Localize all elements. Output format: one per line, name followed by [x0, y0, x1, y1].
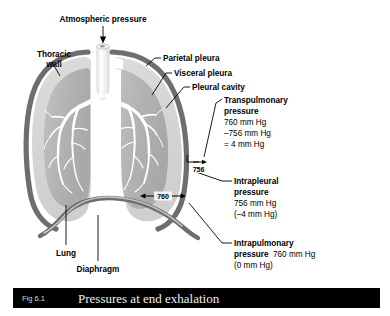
- label-atmospheric-pressure: Atmospheric pressure: [60, 15, 147, 24]
- atmospheric-arrow-head: [100, 37, 106, 44]
- label-thoracic-wall-line2: wall: [45, 60, 61, 69]
- label-pleural-cavity: Pleural cavity: [192, 83, 245, 92]
- intrapleural-value-line2: (–4 mm Hg): [234, 210, 277, 219]
- intrapulmonary-value-line2: (0 mm Hg): [234, 261, 273, 270]
- intrapulmonary-value-inline: 760 mm Hg: [273, 250, 316, 259]
- marker-756-value: 756: [193, 166, 205, 173]
- caption-title: Pressures at end exhalation: [78, 291, 220, 306]
- callout-intrapleural: Intrapleural pressure 756 mm Hg (–4 mm H…: [234, 177, 279, 219]
- transpulmonary-value-line1: 760 mm Hg: [224, 118, 267, 127]
- callout-intrapulmonary: Intrapulmonary pressure 760 mm Hg (0 mm …: [234, 239, 316, 270]
- intrapulmonary-title-line1: Intrapulmonary: [234, 239, 294, 248]
- transpulmonary-value-line2: –756 mm Hg: [224, 129, 271, 138]
- intrapulmonary-title-line2: pressure: [234, 250, 269, 259]
- label-parietal-pleura: Parietal pleura: [163, 54, 220, 63]
- label-thoracic-wall-line1: Thoracic: [37, 50, 72, 59]
- transpulmonary-title-line2: pressure: [224, 107, 259, 116]
- marker-756-arrow-head: [202, 160, 207, 165]
- lung-pressure-diagram: 756 760 Atmospheric pressure Thoracic wa…: [0, 0, 390, 316]
- thoracic-cavity-group: [26, 52, 198, 238]
- trachea-lumen: [100, 45, 105, 47]
- intrapleural-title-line1: Intrapleural: [234, 177, 279, 186]
- caption-bar-group: Fig 6.1 Pressures at end exhalation: [13, 288, 380, 308]
- figure-container: 756 760 Atmospheric pressure Thoracic wa…: [0, 0, 390, 316]
- intrapulmonary-title-line2-group: pressure: [234, 250, 269, 259]
- label-diaphragm: Diaphragm: [77, 265, 120, 274]
- transpulmonary-value-line3: = 4 mm Hg: [224, 140, 265, 149]
- label-visceral-pleura: Visceral pleura: [174, 69, 233, 78]
- intrapleural-leader: [196, 172, 232, 181]
- label-lung: Lung: [56, 249, 76, 258]
- marker-760-value: 760: [157, 193, 169, 200]
- callout-transpulmonary: Transpulmonary pressure 760 mm Hg –756 m…: [224, 96, 288, 149]
- caption-figure-number: Fig 6.1: [22, 294, 45, 303]
- intrapleural-title-line2: pressure: [234, 188, 269, 197]
- trachea: [97, 46, 109, 99]
- transpulmonary-title-line1: Transpulmonary: [224, 96, 288, 105]
- intrapleural-value-line1: 756 mm Hg: [234, 199, 277, 208]
- transpulmonary-leader: [204, 99, 222, 157]
